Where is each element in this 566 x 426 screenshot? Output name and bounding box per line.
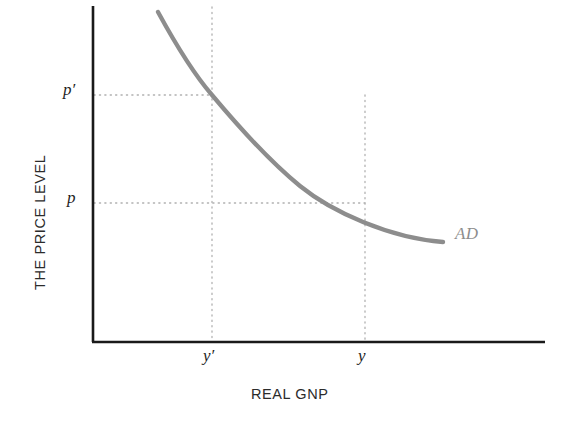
y-tick-label-p: p [67,188,76,208]
ad-curve-label: AD [455,224,478,244]
y-tick-label-p-prime: p′ [63,80,75,100]
y-axis-title: THE PRICE LEVEL [32,154,48,290]
x-tick-label-y-prime: y′ [203,346,214,366]
x-axis-title: REAL GNP [251,386,329,402]
ad-curve [158,12,443,242]
x-tick-label-y: y [358,346,366,366]
plot-area [0,0,566,426]
aggregate-demand-chart: THE PRICE LEVEL REAL GNP p′ p y′ y AD [0,0,566,426]
